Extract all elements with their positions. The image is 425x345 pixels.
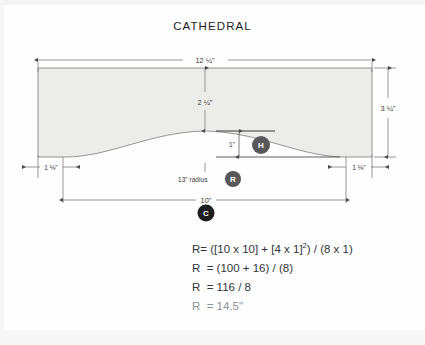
dim-label-rise: 1" bbox=[229, 141, 236, 148]
dim-label-overall-width: 12 ¼" bbox=[195, 56, 214, 65]
formula-line-3: R = 116 / 8 bbox=[192, 278, 417, 297]
badge-h-letter: H bbox=[258, 141, 264, 150]
dim-label-center-height: 2 ¼" bbox=[198, 98, 213, 107]
formula-block: R= ([10 x 10] + [4 x 1]2) / (8 x 1) R = … bbox=[192, 236, 417, 316]
formula-1-pre: = ([10 x 10] + [4 x 1] bbox=[200, 243, 302, 255]
dim-label-overall-height: 3 ¼" bbox=[381, 104, 396, 113]
dim-label-left-shoulder: 1 ⅛" bbox=[44, 164, 58, 171]
dim-label-radius: 13" radius bbox=[178, 176, 208, 183]
badge-c-letter: C bbox=[203, 209, 209, 218]
drawing-page: CATHEDRAL 12 ¼" 3 bbox=[0, 0, 425, 345]
formula-line-1: R= ([10 x 10] + [4 x 1]2) / (8 x 1) bbox=[192, 236, 417, 259]
formula-line-2: R = (100 + 16) / (8) bbox=[192, 259, 417, 278]
dim-label-right-shoulder: 1 ⅛" bbox=[352, 164, 366, 171]
formula-1-post: ) / (8 x 1) bbox=[307, 243, 353, 255]
badge-r-letter: R bbox=[230, 175, 236, 184]
dim-label-chord: 10" bbox=[201, 196, 212, 205]
formula-line-4: R = 14.5" bbox=[192, 297, 417, 316]
